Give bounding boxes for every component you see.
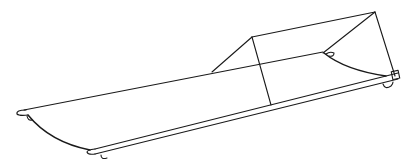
canopy-top-bar [252,12,375,37]
hammock-lower-rail-bottom [95,79,398,154]
canopy-right-upright [375,12,395,76]
hammock-left-sag [28,115,90,150]
hammock-lower-rail-top [95,73,398,149]
hammock-drawing [0,0,415,165]
hammock-upper-edge [24,52,323,110]
hammock-right-sag [324,53,386,76]
hammock-illustration [0,0,415,165]
canopy-left-upright [252,37,271,105]
canopy-right-strut [323,12,375,53]
left-upper-end-cap [17,110,28,115]
left-lower-hook [101,155,107,159]
